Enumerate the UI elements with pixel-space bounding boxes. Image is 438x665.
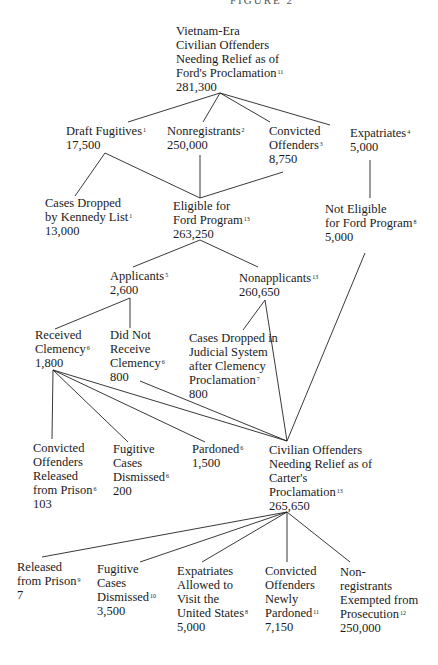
node-value: 263,250 xyxy=(173,227,250,241)
footnote-ref: 6 xyxy=(166,473,169,479)
footnote-ref: 1 xyxy=(129,213,132,219)
node-value: 1,800 xyxy=(35,356,90,370)
node-expatriates: Expatriates4 5,000 xyxy=(350,126,410,154)
footnote-ref: 6 xyxy=(87,345,90,351)
node-value: 265,650 xyxy=(269,499,372,513)
footnote-ref: 13 xyxy=(244,216,250,222)
node-nonregistrants-exempted: Non- registrants Exempted from Prosecuti… xyxy=(340,565,418,635)
node-root: Vietnam-Era Civilian Offenders Needing R… xyxy=(176,24,283,94)
node-judicial-dropped: Cases Dropped in Judicial System after C… xyxy=(189,331,278,401)
footnote-ref: 9 xyxy=(77,577,80,583)
footnote-ref: 11 xyxy=(278,69,284,75)
node-applicants: Applicants5 2,600 xyxy=(110,269,168,297)
footnote-ref: 13 xyxy=(312,274,318,280)
node-nonapplicants: Nonapplicants13 260,650 xyxy=(239,271,318,299)
footnote-ref: 7 xyxy=(257,376,260,382)
footnote-ref: 1 xyxy=(143,127,146,133)
node-not-eligible: Not Eligible for Ford Program8 5,000 xyxy=(325,202,417,244)
footnote-ref: 4 xyxy=(407,129,410,135)
node-value: 7 xyxy=(17,588,80,602)
node-value: 17,500 xyxy=(66,138,146,152)
footnote-ref: 13 xyxy=(337,488,343,494)
node-not-received-clemency: Did Not Receive Clemency6 800 xyxy=(110,328,165,384)
node-value: 800 xyxy=(189,387,278,401)
footnote-ref: 10 xyxy=(150,593,156,599)
node-value: 2,600 xyxy=(110,283,168,297)
footnote-ref: 8 xyxy=(414,219,417,225)
node-value: 5,000 xyxy=(325,230,417,244)
node-fugitive-dismissed-ford: Fugitive Cases Dismissed6 200 xyxy=(113,442,169,498)
node-released-prison-carter: Released from Prison9 7 xyxy=(17,560,80,602)
node-convicted-offenders: Convicted Offenders3 8,750 xyxy=(269,124,323,166)
node-newly-pardoned: Convicted Offenders Newly Pardoned11 7,1… xyxy=(265,564,319,634)
footnote-ref: 5 xyxy=(165,272,168,278)
footnote-ref: 8 xyxy=(245,609,248,615)
footnote-ref: 6 xyxy=(240,445,243,451)
node-value: 250,000 xyxy=(167,138,245,152)
footnote-ref: 6 xyxy=(93,486,96,492)
node-value: 7,150 xyxy=(265,620,319,634)
node-value: 5,000 xyxy=(350,140,410,154)
node-value: 8,750 xyxy=(269,152,323,166)
node-value: 13,000 xyxy=(45,224,132,238)
node-value: 260,650 xyxy=(239,285,318,299)
node-released-prison-ford: Convicted Offenders Released from Prison… xyxy=(33,441,96,511)
node-value: 800 xyxy=(110,370,165,384)
node-value: 103 xyxy=(33,497,96,511)
node-nonregistrants: Nonregistrants2 250,000 xyxy=(167,124,245,152)
node-carter: Civilian Offenders Needing Relief as of … xyxy=(269,443,372,513)
node-fugitive-dismissed-carter: Fugitive Cases Dismissed10 3,500 xyxy=(97,562,156,618)
footnote-ref: 2 xyxy=(242,127,245,133)
node-value: 250,000 xyxy=(340,621,418,635)
node-expatriates-visit: Expatriates Allowed to Visit the United … xyxy=(177,564,248,634)
node-value: 5,000 xyxy=(177,620,248,634)
node-draft-fugitives: Draft Fugitives1 17,500 xyxy=(66,124,146,152)
node-value: 200 xyxy=(113,484,169,498)
node-eligible: Eligible for Ford Program13 263,250 xyxy=(173,199,250,241)
node-value: 3,500 xyxy=(97,604,156,618)
node-pardoned: Pardoned6 1,500 xyxy=(192,442,243,470)
footnote-ref: 3 xyxy=(320,141,323,147)
node-value: 1,500 xyxy=(192,456,243,470)
node-kennedy-list: Cases Dropped by Kennedy List1 13,000 xyxy=(45,196,132,238)
footnote-ref: 11 xyxy=(313,609,319,615)
footnote-ref: 12 xyxy=(400,610,406,616)
node-received-clemency: Received Clemency6 1,800 xyxy=(35,328,90,370)
node-value: 281,300 xyxy=(176,80,283,94)
footnote-ref: 6 xyxy=(162,359,165,365)
